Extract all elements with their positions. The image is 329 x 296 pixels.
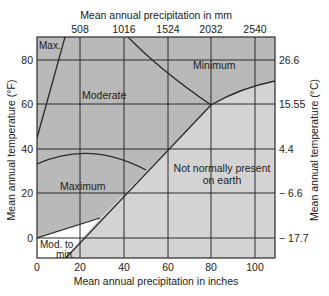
top-axis-ticks: 508 1016 1524 2032 2540 xyxy=(71,23,267,35)
y-axis-left-label: Mean annual temperature (°F) xyxy=(5,80,17,221)
climate-chart: Max. Moderate Minimum Maximum Mod. to mi… xyxy=(0,0,329,296)
svg-text:1016: 1016 xyxy=(112,23,136,35)
svg-text:60: 60 xyxy=(21,98,33,110)
region-label-max: Max. xyxy=(39,40,61,51)
svg-text:− 6.6: − 6.6 xyxy=(279,187,303,199)
svg-text:1524: 1524 xyxy=(156,23,180,35)
region-label-minimum: Minimum xyxy=(193,59,236,71)
svg-text:4.4: 4.4 xyxy=(279,143,294,155)
x-axis-label: Mean annual precipitation in inches xyxy=(74,275,239,287)
svg-text:2032: 2032 xyxy=(199,23,223,35)
top-axis-label: Mean annual precipitation in mm xyxy=(80,9,232,21)
svg-text:80: 80 xyxy=(21,54,33,66)
svg-text:0: 0 xyxy=(34,261,40,273)
region-label-maximum: Maximum xyxy=(60,180,106,192)
svg-text:26.6: 26.6 xyxy=(279,54,300,66)
svg-text:508: 508 xyxy=(71,23,89,35)
svg-text:40: 40 xyxy=(21,143,33,155)
y-axis-right-ticks: 26.6 15.55 4.4 − 6.6 − 17.7 xyxy=(279,54,309,244)
svg-text:40: 40 xyxy=(118,261,130,273)
svg-text:− 17.7: − 17.7 xyxy=(279,232,309,244)
svg-text:2540: 2540 xyxy=(243,23,267,35)
region-label-not-present-1: Not normally present xyxy=(174,162,271,174)
svg-text:15.55: 15.55 xyxy=(279,98,305,110)
region-label-not-present-2: on earth xyxy=(203,174,242,186)
y-axis-left-ticks: 0 20 40 60 80 xyxy=(21,54,33,244)
plot-regions xyxy=(37,37,275,258)
svg-text:60: 60 xyxy=(162,261,174,273)
svg-text:0: 0 xyxy=(27,232,33,244)
region-label-moderate: Moderate xyxy=(82,89,127,101)
svg-text:100: 100 xyxy=(246,261,264,273)
x-axis-ticks: 0 20 40 60 80 100 xyxy=(34,261,264,273)
y-axis-right-label: Mean annual temperature (°C) xyxy=(308,79,320,221)
region-label-min: min. xyxy=(56,249,75,260)
svg-text:80: 80 xyxy=(205,261,217,273)
svg-text:20: 20 xyxy=(74,261,86,273)
svg-text:20: 20 xyxy=(21,187,33,199)
